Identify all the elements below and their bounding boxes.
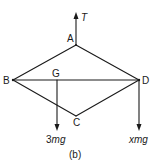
rhombus-force-diagram: T A B G D C 3mg xmg (b) [0,0,154,165]
tension-label: T [81,13,87,23]
edge-c-d [76,80,139,116]
point-b-label: B [3,76,10,86]
vertex-d-dot [138,79,140,81]
tension-arrowhead-icon [74,12,79,19]
vertex-b-dot [12,79,14,81]
point-a-label: A [67,34,74,44]
weight-g-label: 3mg [46,135,65,145]
point-c-label: C [73,118,80,128]
point-g-label: G [52,69,60,79]
edge-a-b [13,45,76,80]
weight-d-label: xmg [129,135,148,145]
edge-b-c [13,80,76,116]
figure-caption: (b) [69,150,81,160]
weight-d-arrowhead-icon [137,124,142,131]
weight-g-arrowhead-icon [55,124,60,131]
vertex-a-dot [75,44,77,46]
weight-g-mg: mg [52,134,66,145]
point-d-label: D [142,76,149,86]
weight-d-mg: mg [134,134,148,145]
edge-a-d [76,45,139,80]
